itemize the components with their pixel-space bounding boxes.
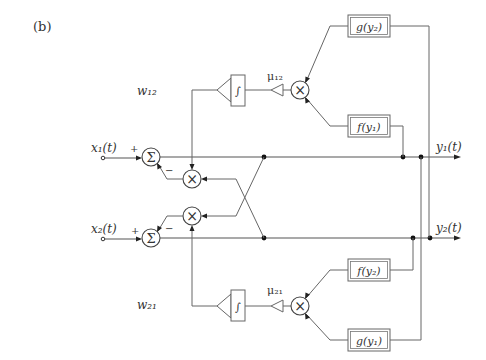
output-y1-label: y₁(t) (435, 140, 462, 154)
block-g-y2: g(y₂) (348, 15, 390, 37)
weight-w12-label: w₁₂ (137, 84, 157, 98)
input-x2: x₂(t) + (91, 222, 142, 242)
gain-mu21-triangle (271, 300, 283, 312)
input-x1-terminal (101, 156, 105, 160)
arrow-icon (190, 225, 195, 231)
weight-w21-label: w₂₁ (137, 298, 157, 312)
arrow-icon (190, 164, 195, 170)
gain-mu12-triangle (271, 84, 283, 96)
gain-mu21-label: μ₂₁ (267, 284, 283, 297)
sigma-icon: Σ (146, 231, 155, 246)
g-y2-to-mult-line (306, 26, 348, 82)
input-x1: x₁(t) + (91, 141, 142, 161)
panel-label: (b) (33, 19, 51, 34)
block-g-y2-label: g(y₂) (356, 21, 382, 34)
multiply-icon: × (186, 208, 198, 224)
block-g-y1: g(y₁) (348, 329, 390, 351)
adapt-multiplier-top: × (291, 81, 309, 99)
arrow-icon (454, 155, 461, 160)
f-y2-to-mult-line (306, 270, 348, 298)
y1-to-g-line (390, 157, 421, 340)
sum1-minus-sign: − (165, 165, 173, 176)
weight-w21-line (192, 227, 217, 306)
adaptive-decorrelation-network-diagram: (b) x₁(t) + x₂(t) + Σ − Σ − y₁(t) y₂(t) (0, 0, 486, 360)
arrow-icon (305, 77, 310, 84)
block-f-y1-label: f(y₁) (356, 121, 380, 134)
sum2-minus-sign: − (165, 223, 173, 234)
sigma-icon: Σ (146, 150, 155, 165)
gain-mu12-label: μ₁₂ (267, 70, 283, 83)
integrator-bottom: ∫ (217, 290, 245, 321)
y2-to-g-line (390, 26, 429, 238)
sum-junction-1: Σ − (142, 148, 173, 176)
arrow-icon (305, 313, 310, 320)
multiply-icon: × (294, 298, 306, 314)
block-f-y2: f(y₂) (348, 259, 390, 281)
arrow-icon (454, 236, 461, 241)
junction-dot (428, 236, 433, 241)
cross-link-y2-to-mult1 (203, 179, 264, 238)
y2-to-f-line (390, 238, 413, 270)
feedback-multiplier-1: × (183, 170, 201, 188)
weight-w12-line (192, 90, 217, 168)
input-x1-label: x₁(t) (91, 141, 117, 155)
block-f-y1: f(y₁) (348, 115, 390, 137)
input-x2-label: x₂(t) (91, 222, 117, 236)
arrow-icon (201, 214, 207, 219)
arrow-icon (136, 156, 142, 161)
block-g-y1-label: g(y₁) (356, 335, 382, 348)
adapt-multiplier-bottom: × (291, 297, 309, 315)
g-y1-to-mult-line (306, 314, 348, 340)
f-y1-to-mult-line (306, 98, 348, 126)
feedback-multiplier-2: × (183, 207, 201, 225)
cross-link-y1-to-mult2 (203, 157, 264, 216)
arrow-icon (201, 177, 207, 182)
integrator-top: ∫ (217, 75, 245, 106)
multiply-icon: × (294, 82, 306, 98)
integral-icon: ∫ (235, 301, 241, 314)
arrow-icon (136, 237, 142, 242)
y1-to-f-line (390, 126, 403, 157)
block-f-y2-label: f(y₂) (356, 265, 380, 278)
input-x2-terminal (101, 237, 105, 241)
integral-icon: ∫ (235, 85, 241, 98)
multiply-icon: × (186, 171, 198, 187)
sum2-plus-sign: + (131, 225, 139, 236)
sum1-plus-sign: + (130, 143, 138, 154)
output-y2-label: y₂(t) (435, 221, 462, 235)
